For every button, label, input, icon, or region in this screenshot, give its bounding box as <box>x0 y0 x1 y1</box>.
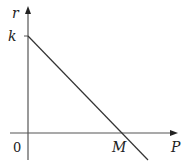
diagram-canvas: r k 0 M P <box>0 0 191 164</box>
origin-label: 0 <box>13 140 21 155</box>
k-label: k <box>8 28 16 44</box>
x-axis-arrow-icon <box>170 130 178 136</box>
m-label: M <box>111 139 127 155</box>
demand-line <box>28 36 148 160</box>
x-axis-label: P <box>170 139 181 155</box>
y-axis-label: r <box>12 5 20 21</box>
y-axis-arrow-icon <box>25 6 31 14</box>
